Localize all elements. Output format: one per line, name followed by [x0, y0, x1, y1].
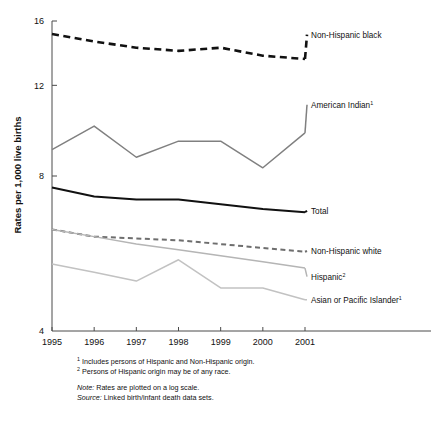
series-label-text: Non-Hispanic white [311, 247, 382, 256]
footnotes: 1 Includes persons of Hispanic and Non-H… [77, 356, 255, 402]
x-tick-label: 1996 [84, 337, 104, 347]
x-tick-label: 1995 [42, 337, 62, 347]
y-tick-label: 4 [39, 326, 44, 336]
series-line-asian-or-pacific-islander [52, 260, 305, 300]
series-label-non-hispanic-black: Non-Hispanic black [311, 31, 382, 40]
series-leader-line [305, 251, 307, 252]
series-leader-line [305, 35, 307, 59]
footnote: 1 Includes persons of Hispanic and Non-H… [77, 356, 255, 366]
y-tick-label: 8 [39, 171, 44, 181]
note-prefix: Note: [77, 383, 94, 392]
y-axis-ticks: 481216 [34, 16, 57, 336]
chart-canvas: Rates per 1,000 live births 481216 19951… [0, 0, 436, 427]
infant-mortality-line-chart: Rates per 1,000 live births 481216 19951… [0, 0, 436, 427]
series-label-text: American Indian [311, 101, 371, 110]
note: Note: Rates are plotted on a log scale. [77, 383, 199, 392]
note-prefix: Source: [77, 393, 102, 402]
series-labels: Non-Hispanic blackAmerican Indian1TotalN… [311, 31, 402, 305]
series-line-total [52, 187, 305, 212]
x-tick-label: 2001 [295, 337, 315, 347]
y-axis-title: Rates per 1,000 live births [12, 116, 23, 233]
series-label-total: Total [311, 207, 328, 216]
y-axis-title-text: Rates per 1,000 live births [12, 116, 23, 233]
series-label-american-indian: American Indian1 [311, 100, 373, 110]
series-label-text: Hispanic [311, 273, 342, 282]
y-tick-label: 12 [34, 81, 44, 91]
x-tick-label: 1997 [126, 337, 146, 347]
note: Source: Linked birth/infant death data s… [77, 393, 214, 402]
series-label-text: Asian or Pacific Islander [311, 296, 399, 305]
series-label-superscript: 2 [342, 272, 345, 278]
series-line-american-indian [52, 126, 305, 168]
footnote-text: Includes persons of Hispanic and Non-His… [80, 357, 255, 366]
series-label-superscript: 1 [370, 100, 373, 106]
series-label-hispanic: Hispanic2 [311, 272, 345, 282]
note-text: Linked birth/infant death data sets. [102, 393, 214, 402]
series-leader-line [305, 105, 307, 133]
x-axis-ticks: 1995199619971998199920002001 [42, 327, 315, 347]
axes [52, 21, 431, 331]
y-tick-label: 16 [34, 16, 44, 26]
series-line-non-hispanic-white [52, 229, 305, 251]
note-text: Rates are plotted on a log scale. [94, 383, 199, 392]
footnote-text: Persons of Hispanic origin may be of any… [80, 367, 231, 376]
x-tick-label: 1998 [168, 337, 188, 347]
series-label-superscript: 1 [399, 295, 402, 301]
series-leader-line [305, 268, 307, 277]
footnote: 2 Persons of Hispanic origin may be of a… [77, 366, 231, 376]
data-series [52, 34, 307, 300]
series-label-text: Total [311, 207, 328, 216]
series-leader-line [305, 211, 307, 213]
x-tick-label: 2000 [253, 337, 273, 347]
x-tick-label: 1999 [211, 337, 231, 347]
series-label-non-hispanic-white: Non-Hispanic white [311, 247, 382, 256]
series-line-non-hispanic-black [52, 34, 305, 59]
series-label-asian-or-pacific-islander: Asian or Pacific Islander1 [311, 295, 402, 305]
series-label-text: Non-Hispanic black [311, 31, 382, 40]
